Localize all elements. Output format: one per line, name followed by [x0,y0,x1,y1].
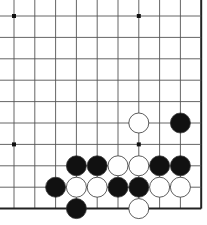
black-stone[interactable] [150,156,170,176]
star-point [137,14,141,18]
black-stone[interactable] [108,177,128,197]
board-grid [0,0,201,209]
white-stone[interactable] [108,156,128,176]
star-point [12,14,16,18]
black-stone[interactable] [46,177,66,197]
star-point [12,142,16,146]
black-stone[interactable] [129,177,149,197]
black-stone[interactable] [66,199,86,219]
black-stone[interactable] [170,113,190,133]
white-stone[interactable] [87,177,107,197]
black-stone[interactable] [170,156,190,176]
white-stone[interactable] [129,156,149,176]
white-stone[interactable] [129,113,149,133]
black-stone[interactable] [87,156,107,176]
go-board[interactable] [0,0,207,225]
white-stone[interactable] [170,177,190,197]
star-point [137,142,141,146]
black-stone[interactable] [66,156,86,176]
white-stone[interactable] [129,199,149,219]
white-stone[interactable] [150,177,170,197]
white-stone[interactable] [66,177,86,197]
